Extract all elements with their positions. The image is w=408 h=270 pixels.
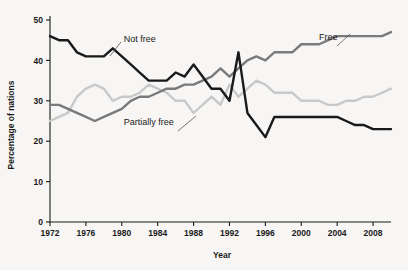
x-axis-tick-label: 1972	[41, 228, 60, 238]
x-axis-title: Year	[213, 250, 232, 260]
x-axis-tick-label: 2000	[292, 228, 311, 238]
percentage-of-nations-line-chart: 01020304050 1972197619801984198819921996…	[0, 0, 408, 270]
y-axis-tick-label: 40	[34, 56, 44, 66]
y-axis-tick-label: 30	[34, 96, 44, 106]
y-axis-tick-label: 20	[34, 136, 44, 146]
x-axis-tick-label: 2004	[328, 228, 347, 238]
chart-container: 01020304050 1972197619801984198819921996…	[0, 0, 408, 270]
series-label-free: Free	[319, 32, 338, 42]
x-axis-tick-label: 1988	[184, 228, 203, 238]
y-axis-tick-label: 10	[34, 177, 44, 187]
x-axis-tick-label: 1984	[148, 228, 167, 238]
series-label-not-free: Not free	[124, 34, 156, 44]
y-axis-tick-label: 0	[38, 217, 43, 227]
y-axis-tick-label: 50	[34, 15, 44, 25]
x-axis-tick-label: 1992	[220, 228, 239, 238]
series-label-partially-free: Partially free	[124, 117, 174, 127]
x-axis-tick-label: 1980	[112, 228, 131, 238]
x-axis-tick-label: 1976	[76, 228, 95, 238]
x-axis-tick-label: 1996	[256, 228, 275, 238]
x-axis-tick-label: 2008	[364, 228, 383, 238]
y-axis-title: Percentage of nations	[6, 80, 16, 169]
